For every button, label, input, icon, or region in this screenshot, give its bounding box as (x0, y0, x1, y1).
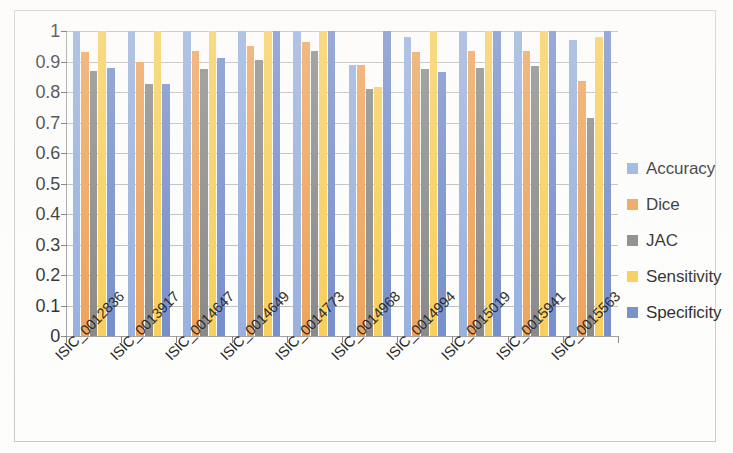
bar (73, 31, 81, 336)
legend-item: Dice (627, 186, 732, 222)
x-axis-tick-mark (121, 336, 122, 343)
x-axis-tick-mark (452, 336, 453, 343)
legend-item: Sensitivity (627, 258, 732, 294)
bar (136, 62, 144, 337)
legend-label: Accuracy (646, 160, 715, 177)
y-axis-tick-label: 0.6 (4, 144, 60, 162)
bar (319, 31, 327, 336)
bar (81, 52, 89, 336)
bar (412, 52, 420, 336)
bar (302, 42, 310, 336)
bar (183, 31, 191, 336)
plot-area (66, 31, 618, 336)
bar (238, 31, 246, 336)
bar (468, 51, 476, 336)
bar (476, 68, 484, 336)
legend-swatch-icon (627, 199, 638, 210)
x-axis-tick-mark (563, 336, 564, 343)
bar (404, 37, 412, 336)
x-axis-tick-mark (287, 336, 288, 343)
y-axis-tick-label: 0.9 (4, 53, 60, 71)
legend-label: Dice (646, 196, 680, 213)
chart-legend: AccuracyDiceJACSensitivitySpecificity (627, 150, 732, 330)
bar (98, 31, 106, 336)
y-axis-tick-mark (61, 123, 67, 124)
x-axis-tick-mark (342, 336, 343, 343)
legend-label: Sensitivity (646, 268, 721, 285)
legend-label: JAC (646, 232, 678, 249)
bar (357, 65, 365, 336)
chart-screenshot: 00.10.20.30.40.50.60.70.80.91 ISIC_00128… (0, 0, 733, 453)
legend-swatch-icon (627, 163, 638, 174)
bar (247, 46, 255, 336)
x-axis-tick-mark (618, 336, 619, 343)
y-axis-tick-label: 1 (4, 22, 60, 40)
y-axis-tick-label: 0.4 (4, 205, 60, 223)
bar (255, 60, 263, 336)
x-axis-tick-mark (176, 336, 177, 343)
y-axis-tick-label: 0.8 (4, 83, 60, 101)
y-axis-tick-mark (61, 275, 67, 276)
legend-swatch-icon (627, 235, 638, 246)
bar (485, 31, 493, 336)
y-axis-tick-label: 0.5 (4, 175, 60, 193)
legend-item: JAC (627, 222, 732, 258)
legend-label: Specificity (646, 304, 721, 321)
bar (264, 31, 272, 336)
bar (128, 31, 136, 336)
y-axis-tick-label: 0.1 (4, 297, 60, 315)
bar (430, 31, 438, 336)
x-axis-tick-mark (397, 336, 398, 343)
x-axis-tick-mark (232, 336, 233, 343)
x-axis-tick-mark (66, 336, 67, 343)
y-axis-tick-label: 0 (4, 327, 60, 345)
y-axis-tick-label: 0.2 (4, 266, 60, 284)
bar (154, 31, 162, 336)
bar (578, 81, 586, 336)
bar (514, 31, 522, 336)
y-axis-tick-label: 0.3 (4, 236, 60, 254)
bar (569, 40, 577, 336)
legend-swatch-icon (627, 271, 638, 282)
legend-item: Specificity (627, 294, 732, 330)
y-axis-tick-mark (61, 214, 67, 215)
y-axis-tick-mark (61, 306, 67, 307)
bar (192, 51, 200, 336)
y-axis-tick-mark (61, 62, 67, 63)
bar (595, 37, 603, 336)
bar (540, 31, 548, 336)
bar (90, 71, 98, 336)
x-axis-tick-mark (508, 336, 509, 343)
y-axis-tick-mark (61, 92, 67, 93)
legend-swatch-icon (627, 307, 638, 318)
bar (293, 31, 301, 336)
y-axis-tick-mark (61, 184, 67, 185)
bar (349, 65, 357, 336)
legend-item: Accuracy (627, 150, 732, 186)
y-axis-tick-mark (61, 245, 67, 246)
bar (209, 31, 217, 336)
bar (200, 69, 208, 336)
bar (523, 51, 531, 336)
y-axis-labels: 00.10.20.30.40.50.60.70.80.91 (0, 31, 60, 336)
bar (311, 51, 319, 336)
y-axis-tick-mark (61, 31, 67, 32)
bar (531, 66, 539, 336)
y-axis-tick-mark (61, 153, 67, 154)
y-axis-tick-label: 0.7 (4, 114, 60, 132)
bar (145, 84, 153, 336)
bar (459, 31, 467, 336)
bar (587, 118, 595, 336)
bar (421, 69, 429, 336)
bar (366, 89, 374, 336)
